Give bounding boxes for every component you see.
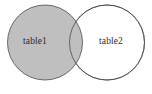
venn-diagram-canvas: table1 table2: [0, 0, 152, 94]
set-label-table1: table1: [23, 36, 47, 46]
venn-diagram: table1 table2: [0, 0, 152, 94]
set-label-table2: table2: [99, 36, 123, 46]
